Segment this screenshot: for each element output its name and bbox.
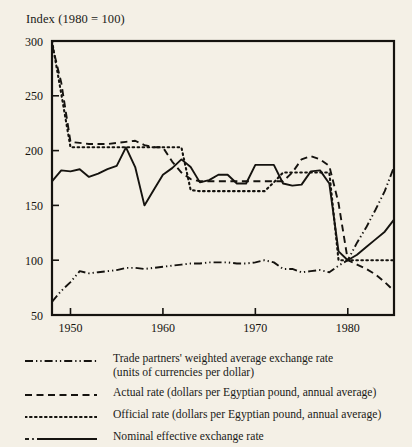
dash-dot-dot-line-sample	[25, 354, 97, 368]
solid-line-sample	[25, 432, 97, 446]
legend-item-official-rate: Official rate (dollars per Egyptian poun…	[25, 408, 405, 424]
y-tick-label: 300	[25, 35, 43, 49]
chart-legend: Trade partners' weighted average exchang…	[25, 352, 405, 447]
legend-label-nominal-effective: Nominal effective exchange rate	[113, 430, 264, 444]
chart-plot-area: 501001502002503001950196019701980	[0, 0, 412, 340]
y-tick-label: 100	[25, 254, 43, 268]
x-tick-label: 1950	[58, 321, 82, 335]
dotted-line-sample	[25, 410, 97, 424]
x-tick-label: 1980	[336, 321, 360, 335]
legend-label-actual-rate: Actual rate (dollars per Egyptian pound,…	[113, 386, 376, 400]
dashed-line-sample	[25, 388, 97, 402]
x-tick-label: 1970	[243, 321, 267, 335]
legend-item-trade-partners: Trade partners' weighted average exchang…	[25, 352, 405, 379]
y-tick-label: 250	[25, 89, 43, 103]
plot-frame	[52, 41, 394, 315]
series-trade-partners	[52, 167, 394, 302]
legend-label-trade-partners: Trade partners' weighted average exchang…	[113, 352, 333, 379]
chart-series-group	[52, 41, 394, 302]
series-actual-rate	[52, 44, 394, 291]
legend-label-official-rate: Official rate (dollars per Egyptian poun…	[113, 408, 381, 422]
legend-item-nominal-effective: Nominal effective exchange rate	[25, 430, 405, 446]
y-tick-label: 150	[25, 199, 43, 213]
series-nominal-effective	[52, 147, 394, 260]
y-tick-label: 50	[31, 309, 43, 323]
x-tick-label: 1960	[151, 321, 175, 335]
y-tick-label: 200	[25, 144, 43, 158]
chart-axes: 501001502002503001950196019701980	[25, 35, 394, 336]
legend-item-actual-rate: Actual rate (dollars per Egyptian pound,…	[25, 386, 405, 402]
